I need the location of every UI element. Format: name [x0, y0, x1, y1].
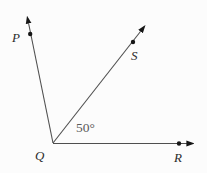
diagram-canvas: P S Q R 50° — [0, 0, 207, 173]
angle-value-label: 50° — [76, 120, 95, 135]
ray-QS — [53, 27, 144, 143]
ray-QP — [28, 18, 54, 143]
angle-diagram: P S Q R 50° — [0, 0, 207, 173]
point-S — [131, 40, 135, 44]
label-Q: Q — [35, 148, 45, 163]
point-P — [28, 32, 32, 36]
label-S: S — [131, 48, 138, 63]
label-R: R — [173, 150, 182, 165]
label-P: P — [11, 30, 20, 45]
point-R — [177, 141, 181, 145]
